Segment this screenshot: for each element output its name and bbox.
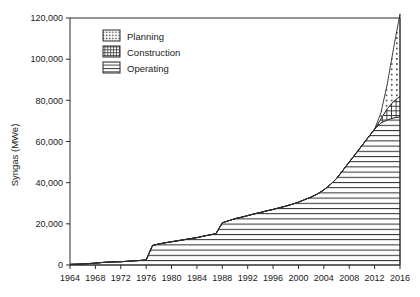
chart-canvas: 020,00040,00060,00080,000100,000120,000 … — [0, 0, 420, 297]
legend-item-operating: Operating — [103, 62, 169, 74]
x-tick-label: 2016 — [390, 273, 410, 283]
legend-swatch-grid — [103, 46, 120, 57]
x-tick-label: 1992 — [238, 273, 258, 283]
x-tick-label: 1976 — [136, 273, 156, 283]
y-tick-label: 80,000 — [35, 96, 63, 106]
legend-item-planning: Planning — [103, 30, 164, 42]
x-tick-label: 2012 — [365, 273, 385, 283]
legend-label: Construction — [127, 47, 180, 58]
legend-item-construction: Construction — [103, 46, 180, 58]
legend-label: Planning — [127, 31, 164, 42]
y-tick-label: 120,000 — [30, 13, 63, 23]
x-tick-label: 1988 — [212, 273, 232, 283]
syngas-capacity-chart: 020,00040,00060,00080,000100,000120,000 … — [0, 0, 420, 297]
x-tick-label: 1964 — [60, 273, 80, 283]
x-tick-label: 1968 — [85, 273, 105, 283]
x-tick-label: 2008 — [339, 273, 359, 283]
y-tick-label: 100,000 — [30, 54, 63, 64]
legend-label: Operating — [127, 63, 169, 74]
x-tick-label: 1984 — [187, 273, 207, 283]
y-tick-label: 20,000 — [35, 219, 63, 229]
legend-swatch-dots — [103, 30, 120, 41]
legend-swatch-horizontal-lines — [103, 62, 120, 73]
x-tick-label: 1996 — [263, 273, 283, 283]
y-tick-label: 0 — [58, 260, 63, 270]
y-axis-title: Syngas (MWe) — [9, 124, 20, 187]
x-tick-label: 1972 — [111, 273, 131, 283]
x-tick-label: 2000 — [288, 273, 308, 283]
x-tick-label: 2004 — [314, 273, 334, 283]
x-tick-label: 1980 — [162, 273, 182, 283]
y-tick-label: 40,000 — [35, 178, 63, 188]
y-tick-label: 60,000 — [35, 137, 63, 147]
